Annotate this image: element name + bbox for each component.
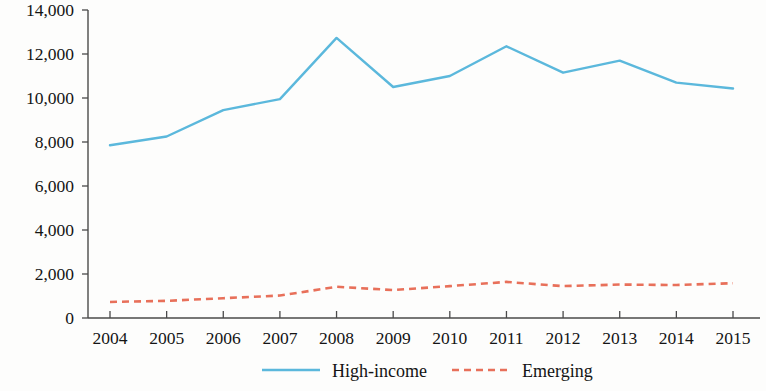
x-tick-label: 2009	[376, 328, 411, 348]
y-tick-label: 4,000	[35, 220, 75, 240]
x-tick-label: 2008	[319, 328, 354, 348]
x-axis: 2004200520062007200820092010201120122013…	[88, 311, 760, 348]
x-tick-label: 2014	[659, 328, 694, 348]
x-tick-label: 2013	[602, 328, 637, 348]
x-tick-label: 2012	[546, 328, 581, 348]
y-tick-label: 8,000	[35, 132, 75, 152]
x-tick-label: 2007	[262, 328, 297, 348]
x-tick-label: 2006	[206, 328, 241, 348]
y-axis: 02,0004,0006,0008,00010,00012,00014,000	[26, 0, 88, 328]
x-tick-marks	[110, 311, 733, 318]
x-tick-label: 2015	[716, 328, 751, 348]
y-tick-label: 14,000	[26, 0, 74, 20]
series-line-high-income	[110, 38, 733, 145]
legend-label-high-income: High-income	[332, 361, 427, 381]
series-lines	[110, 38, 733, 302]
y-tick-label: 10,000	[26, 88, 74, 108]
y-tick-label: 6,000	[35, 176, 75, 196]
legend: High-income Emerging	[262, 361, 593, 381]
y-tick-label: 0	[65, 308, 74, 328]
x-tick-label: 2010	[432, 328, 467, 348]
y-tick-label: 2,000	[35, 264, 75, 284]
x-tick-label: 2005	[149, 328, 184, 348]
y-tick-labels: 02,0004,0006,0008,00010,00012,00014,000	[26, 0, 74, 328]
x-tick-label: 2011	[489, 328, 523, 348]
line-chart: 02,0004,0006,0008,00010,00012,00014,000 …	[0, 0, 766, 391]
chart-canvas: 02,0004,0006,0008,00010,00012,00014,000 …	[0, 0, 766, 391]
y-tick-marks	[82, 10, 88, 318]
y-tick-label: 12,000	[26, 44, 74, 64]
series-line-emerging	[110, 282, 733, 302]
x-tick-label: 2004	[93, 328, 128, 348]
x-tick-labels: 2004200520062007200820092010201120122013…	[93, 328, 751, 348]
legend-label-emerging: Emerging	[522, 361, 593, 381]
